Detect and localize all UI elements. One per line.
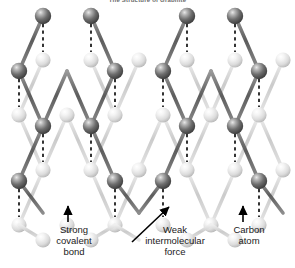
label-carbon-line2: atom bbox=[218, 235, 280, 246]
label-weak-line2: intermolecular bbox=[129, 235, 221, 246]
label-strong-line2: covalent bbox=[34, 235, 114, 246]
page-title: The Structure of Graphite bbox=[0, 0, 295, 2]
label-weak-intermolecular-force: Weak intermolecular force bbox=[129, 224, 221, 257]
label-weak-line3: force bbox=[129, 246, 221, 257]
front-layer-carbon-atoms bbox=[11, 8, 267, 189]
label-strong-line3: bond bbox=[34, 246, 114, 257]
label-carbon-atom: Carbon atom bbox=[218, 224, 280, 246]
graphite-structure-figure: The Structure of Graphite bbox=[0, 0, 295, 268]
label-strong-line1: Strong bbox=[34, 224, 114, 235]
label-strong-covalent-bond: Strong covalent bond bbox=[34, 224, 114, 257]
label-carbon-line1: Carbon bbox=[218, 224, 280, 235]
label-weak-line1: Weak bbox=[129, 224, 221, 235]
